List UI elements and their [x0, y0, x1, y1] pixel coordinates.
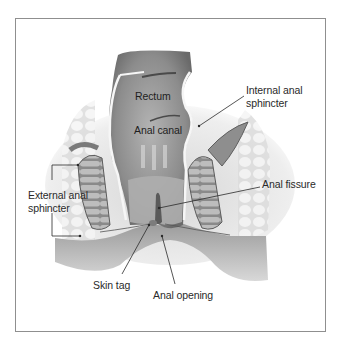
label-anal-canal: Anal canal [134, 124, 182, 137]
label-internal-sphincter-line2: sphincter [246, 97, 288, 110]
label-skin-tag: Skin tag [93, 279, 130, 292]
label-external-sphincter-line2: sphincter [28, 202, 70, 215]
skin-tag-mark [149, 220, 157, 226]
label-internal-sphincter-line1: Internal anal [246, 84, 303, 97]
label-anal-fissure: Anal fissure [262, 178, 316, 191]
label-anal-opening: Anal opening [153, 289, 213, 302]
label-rectum: Rectum [135, 90, 171, 103]
label-external-sphincter-line1: External anal [28, 189, 88, 202]
